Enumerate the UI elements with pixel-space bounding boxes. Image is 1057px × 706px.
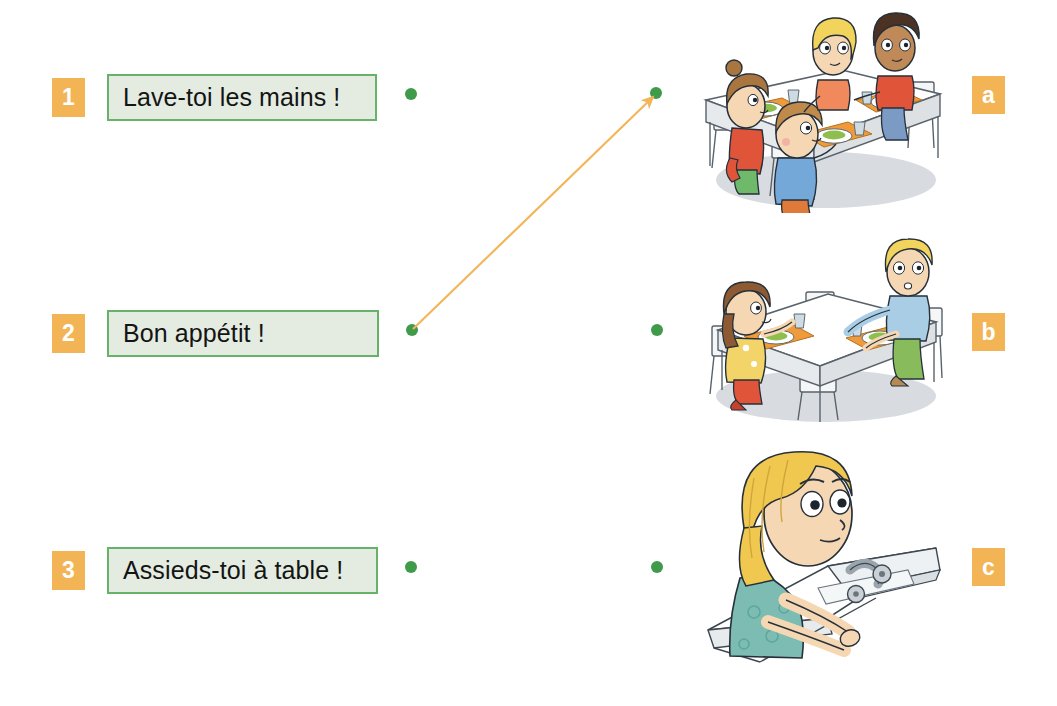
matching-exercise-worksheet: 1 Lave-toi les mains ! 2 Bon appétit ! 3…	[0, 0, 1057, 706]
phrase-text-2: Bon appétit !	[123, 319, 265, 348]
letter-badge-b: b	[972, 313, 1005, 351]
connector-dot-right-a[interactable]	[650, 87, 662, 99]
connector-dot-left-3[interactable]	[405, 561, 417, 573]
phrase-box-2[interactable]: Bon appétit !	[107, 310, 379, 357]
connector-dot-right-b[interactable]	[651, 324, 663, 336]
connector-dot-left-1[interactable]	[405, 88, 417, 100]
phrase-box-3[interactable]: Assieds-toi à table !	[107, 547, 378, 594]
phrase-row-1[interactable]: 1 Lave-toi les mains !	[52, 74, 377, 121]
phrase-row-3[interactable]: 3 Assieds-toi à table !	[52, 547, 378, 594]
illustration-a[interactable]	[694, 8, 946, 213]
letter-badge-a: a	[972, 76, 1005, 114]
number-badge-2: 2	[52, 314, 85, 353]
phrase-row-2[interactable]: 2 Bon appétit !	[52, 310, 379, 357]
number-badge-3: 3	[52, 551, 85, 590]
letter-badge-c: c	[972, 548, 1005, 586]
phrase-text-3: Assieds-toi à table !	[123, 556, 343, 585]
connector-dot-left-2[interactable]	[406, 324, 418, 336]
phrase-box-1[interactable]: Lave-toi les mains !	[107, 74, 377, 121]
phrase-text-1: Lave-toi les mains !	[123, 83, 340, 112]
number-badge-1: 1	[52, 78, 85, 117]
connector-dot-right-c[interactable]	[651, 561, 663, 573]
illustration-c[interactable]	[700, 448, 950, 693]
illustration-b[interactable]	[700, 238, 948, 426]
